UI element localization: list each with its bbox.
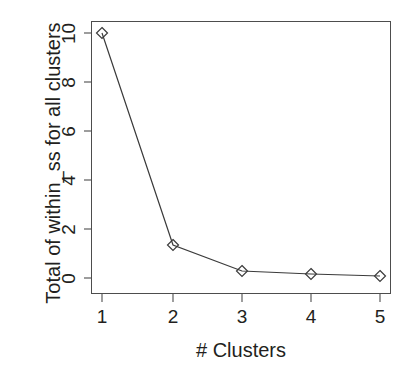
x-tick-label-5: 5 [360,307,400,326]
x-tick-label-3: 3 [222,307,262,326]
x-axis-title: # Clusters [91,339,391,361]
y-axis-ticks [84,33,91,278]
x-tick-label-4: 4 [291,307,331,326]
plot-frame [91,21,391,294]
chart-screenshot: 10 8 6 4 2 0 1 2 3 4 5 Total of within_s… [0,0,411,378]
y-axis-title: Total of within_ss for all clusters [42,18,64,308]
x-tick-label-2: 2 [153,307,193,326]
x-axis-ticks [102,294,380,302]
x-tick-label-1: 1 [82,307,122,326]
